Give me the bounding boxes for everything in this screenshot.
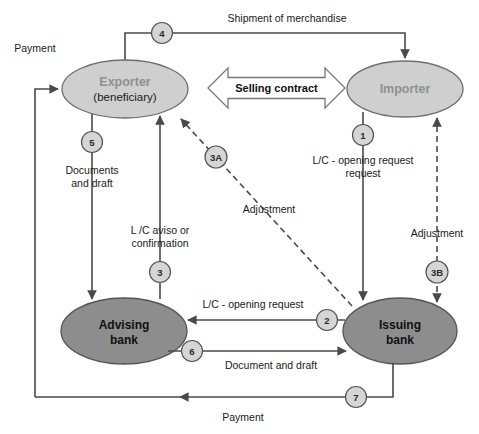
edge-label-shipment: Shipment of merchandise [227,12,346,24]
node-exporter: Exporter (beneficiary) [62,60,188,118]
edge-label-lc-aviso-line1: L /C aviso or [131,224,190,236]
advising-bank-label: Advising [99,318,150,332]
exporter-sublabel: (beneficiary) [93,91,156,103]
badge-7: 7 [346,387,367,408]
node-advising-bank: Advising bank [61,298,187,364]
badge-4: 4 [152,23,173,44]
edge-documents-and-draft: 5 Documents and draft [65,114,118,299]
badge-3A-text: 3A [210,152,222,163]
badge-7-text: 7 [353,392,358,403]
edge-payment-bottom: 7 Payment [35,363,393,423]
edge-label-lc-aviso-line2: confirmation [131,237,188,249]
lc-flow-diagram: Shipment of merchandise 4 Selling contra… [0,0,479,434]
badge-6-text: 6 [189,346,194,357]
edge-label-lc-opening-bank: L/C - opening request [203,298,304,310]
edge-selling-contract: Selling contract [208,68,345,108]
edge-shipment-of-merchandise: Shipment of merchandise 4 [125,12,405,60]
advising-bank-sublabel: bank [110,333,138,347]
badge-3B-text: 3B [431,267,443,278]
node-issuing-bank: Issuing bank [343,298,457,364]
badge-5-text: 5 [89,137,95,148]
badge-5: 5 [82,132,103,153]
edge-label-selling-contract: Selling contract [235,82,318,94]
edge-lc-opening-request-importer: 1 L/C - opening request request [313,112,414,300]
badge-1: 1 [353,125,374,146]
badge-3: 3 [150,262,171,283]
badge-3B: 3B [426,261,448,283]
edge-document-and-draft: 6 Document and draft [168,341,346,372]
edge-label-lc-opening-importer-line1: L/C - opening request [313,154,414,166]
edge-lc-aviso: 3 L /C aviso or confirmation [131,116,190,299]
edge-adjustment-a: 3A Adjustment [181,119,352,306]
badge-2-text: 2 [324,315,329,326]
node-importer: Importer [347,61,463,117]
diagram-canvas: Shipment of merchandise 4 Selling contra… [0,0,479,434]
edge-label-adjustment-a: Adjustment [243,203,296,215]
badge-3A: 3A [205,146,227,168]
edge-label-documents-line1: Documents [65,164,118,176]
badge-3-text: 3 [157,267,162,278]
issuing-bank-sublabel: bank [386,333,414,347]
exporter-label: Exporter [99,75,151,89]
issuing-bank-label: Issuing [379,318,421,332]
edge-adjustment-b: 3B Adjustment [411,118,464,302]
exporter-ellipse [62,60,188,118]
badge-2: 2 [317,310,338,331]
badge-4-text: 4 [159,28,165,39]
importer-label: Importer [380,82,431,96]
edge-label-lc-opening-importer-line2: request [345,167,380,179]
badge-1-text: 1 [360,130,366,141]
edge-label-payment-bottom: Payment [222,411,264,423]
edge-label-document-and-draft: Document and draft [225,359,317,371]
edge-label-documents-line2: and draft [71,177,113,189]
edge-lc-opening-request-bank: 2 L/C - opening request [188,298,345,331]
edge-label-payment-left: Payment [14,42,56,54]
edge-label-adjustment-b: Adjustment [411,227,464,239]
badge-6: 6 [182,341,203,362]
edge-payment-left: Payment [14,42,58,397]
